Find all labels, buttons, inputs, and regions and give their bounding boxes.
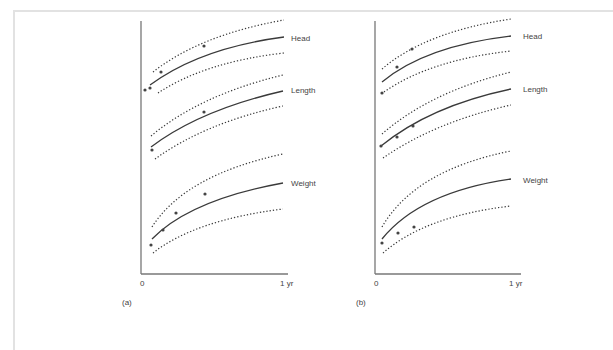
panel-b-weight-upper-bound xyxy=(382,151,511,227)
panel-a-weight-label: Weight xyxy=(291,179,317,188)
panel-b-x-end-label: 1 yr xyxy=(509,279,523,288)
panel-a-length-label: Length xyxy=(291,86,315,95)
panel-b-length-median xyxy=(381,89,511,146)
panel-a-head-point xyxy=(159,70,162,73)
panel-b-length-label: Length xyxy=(523,85,547,94)
panel-a-head-point xyxy=(143,88,146,91)
panel-b-head-median xyxy=(382,36,511,82)
panel-a-length-median xyxy=(151,91,283,147)
panel-b-weight-label: Weight xyxy=(523,176,549,185)
panel-a-length-lower-bound xyxy=(155,106,283,159)
panel-a-head-lower-bound xyxy=(158,53,284,93)
panel-b-length-point xyxy=(411,124,414,127)
panel-b-weight-point xyxy=(396,231,399,234)
panel-b: 0 1 yr (b) Head Length Weight xyxy=(356,19,549,307)
panel-b-head-upper-bound xyxy=(382,19,511,69)
panel-a-weight-lower-bound xyxy=(153,209,283,253)
panel-b-weight-point xyxy=(380,241,383,244)
panel-a-caption: (a) xyxy=(122,298,132,307)
panel-b-length-lower-bound xyxy=(383,105,511,158)
panel-a-weight-upper-bound xyxy=(152,154,283,227)
panel-a: 0 1 yr (a) Head Length Weight xyxy=(122,20,317,307)
panel-a-weight-point xyxy=(161,228,164,231)
panel-a-length-upper-bound xyxy=(151,75,283,136)
panel-a-weight-point xyxy=(149,243,152,246)
panel-a-weight-median xyxy=(152,183,283,239)
panel-a-head-point xyxy=(148,86,151,89)
panel-a-head-upper-bound xyxy=(153,20,284,72)
panel-a-weight-point xyxy=(203,192,206,195)
panel-b-weight-lower-bound xyxy=(383,206,511,253)
panel-a-head-label: Head xyxy=(291,34,310,43)
panel-a-head-median xyxy=(150,37,284,85)
panel-b-weight-point xyxy=(412,225,415,228)
panel-a-length-point xyxy=(150,148,153,151)
panel-b-head-point xyxy=(395,65,398,68)
panel-b-length-point xyxy=(395,135,398,138)
panel-b-head-point xyxy=(410,47,413,50)
panel-b-head-lower-bound xyxy=(384,51,511,92)
panel-a-head-point xyxy=(202,44,205,47)
panel-a-x-end-label: 1 yr xyxy=(280,279,294,288)
panel-a-length-point xyxy=(202,110,205,113)
panel-b-caption: (b) xyxy=(356,298,366,307)
panel-b-head-label: Head xyxy=(523,32,542,41)
panel-b-head-point xyxy=(380,91,383,94)
panel-b-x-start-label: 0 xyxy=(374,279,379,288)
panel-b-length-point xyxy=(379,144,382,147)
panel-a-weight-point xyxy=(174,211,177,214)
panel-a-x-start-label: 0 xyxy=(140,279,145,288)
